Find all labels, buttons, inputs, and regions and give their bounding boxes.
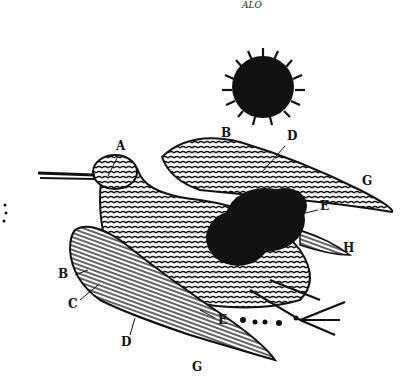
label-H: H xyxy=(343,242,354,254)
bird-head xyxy=(93,155,137,189)
label-B-lower: B xyxy=(58,268,68,280)
label-D-upper: D xyxy=(287,130,297,142)
ink-blot-star-icon xyxy=(222,48,305,125)
label-A: A xyxy=(116,140,125,152)
label-D-lower: D xyxy=(121,336,131,348)
label-B-upper: B xyxy=(221,127,231,139)
label-E-upper: E xyxy=(320,200,329,212)
bird-engraving: ALO xyxy=(0,0,411,388)
label-E-lower: E xyxy=(218,314,227,326)
label-G-lower: G xyxy=(192,361,202,373)
bird-illustration-icon xyxy=(0,0,411,388)
bird-beak xyxy=(38,173,95,175)
label-C: C xyxy=(68,298,78,310)
label-G-upper: G xyxy=(362,175,372,187)
